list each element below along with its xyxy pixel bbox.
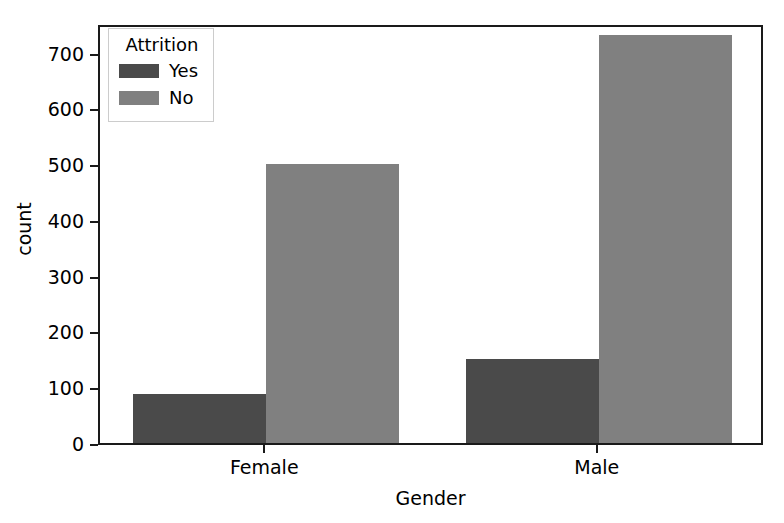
y-tick-label: 200 (4, 323, 84, 342)
legend-entry-no: No (119, 88, 211, 108)
y-tick-label: 700 (4, 45, 84, 64)
y-tick-label: 300 (4, 268, 84, 287)
y-tick-mark (90, 277, 98, 279)
x-tick-mark (263, 445, 265, 453)
y-tick-mark (90, 332, 98, 334)
bar-male-yes (466, 359, 599, 443)
legend-label-no: No (169, 88, 193, 108)
y-tick-mark (90, 165, 98, 167)
y-tick-mark (90, 54, 98, 56)
y-tick-label: 600 (4, 100, 84, 119)
x-tick-label: Female (164, 456, 364, 478)
legend-swatch-yes (119, 64, 159, 78)
y-tick-mark (90, 221, 98, 223)
legend-entry-yes: Yes (119, 61, 211, 81)
x-tick-mark (596, 445, 598, 453)
y-tick-label: 400 (4, 212, 84, 231)
y-tick-label: 0 (4, 435, 84, 454)
x-axis-label: Gender (98, 487, 763, 509)
legend-box: Attrition YesNo (108, 28, 214, 122)
y-tick-label: 500 (4, 156, 84, 175)
y-tick-mark (90, 109, 98, 111)
bar-female-no (266, 164, 399, 443)
legend-label-yes: Yes (169, 61, 198, 81)
y-tick-label: 100 (4, 379, 84, 398)
y-tick-mark (90, 444, 98, 446)
legend-title: Attrition (109, 35, 215, 55)
bar-male-no (599, 35, 732, 443)
legend-swatch-no (119, 91, 159, 105)
x-tick-label: Male (497, 456, 697, 478)
figure-canvas: count 0100200300400500600700 FemaleMale … (0, 0, 784, 523)
y-tick-mark (90, 388, 98, 390)
bar-female-yes (133, 394, 266, 443)
